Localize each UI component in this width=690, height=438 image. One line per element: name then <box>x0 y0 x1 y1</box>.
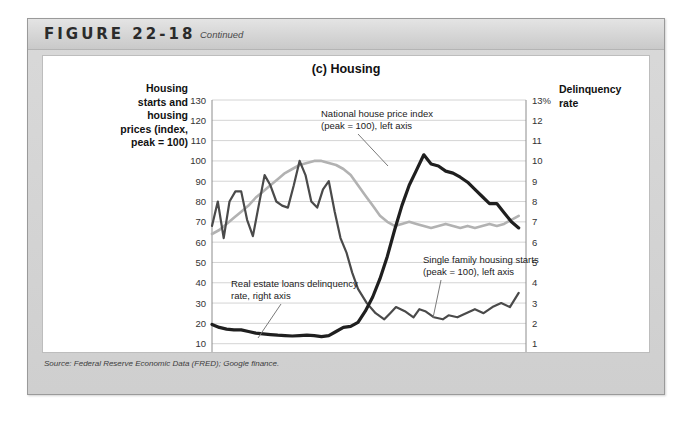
chart-panel: (c) Housing Housingstarts andhousingpric… <box>42 55 650 353</box>
y-tick-right-label-4: 4 <box>532 277 537 288</box>
annotation-single-family-housing-starts: Single family housing starts(peak = 100)… <box>423 254 539 278</box>
y-tick-left-label-120: 120 <box>190 115 206 126</box>
y-tick-left-label-30: 30 <box>195 298 206 309</box>
y-tick-right-label-12: 12 <box>532 115 543 126</box>
y-tick-right-label-7: 7 <box>532 216 537 227</box>
series-line-national-house-price-index-peak-100-left-axis <box>212 161 519 234</box>
y-tick-right-label-9: 9 <box>532 176 537 187</box>
annotation-real-estate-loans-delinquency-rate-line-0: Real estate loans delinquency <box>231 278 358 290</box>
y-tick-right-label-2: 2 <box>532 318 537 329</box>
y-tick-left-label-60: 60 <box>195 237 206 248</box>
annotation-single-family-housing-starts-line-1: (peak = 100), left axis <box>423 266 539 278</box>
annotation-real-estate-loans-delinquency-rate: Real estate loans delinquencyrate, right… <box>231 278 358 302</box>
y-tick-left-label-80: 80 <box>195 196 206 207</box>
y-tick-right-label-8: 8 <box>532 196 537 207</box>
y-tick-right-label-3: 3 <box>532 298 537 309</box>
y-tick-left-label-100: 100 <box>190 155 206 166</box>
y-tick-left-label-90: 90 <box>195 176 206 187</box>
figure-continued-label: Continued <box>200 29 243 40</box>
plot-svg: 2003200420052006200720082009201020112012… <box>43 56 649 352</box>
plot-area: 2003200420052006200720082009201020112012… <box>43 56 649 352</box>
y-tick-right-label-1: 1 <box>532 338 537 349</box>
y-tick-right-label-11: 11 <box>532 135 542 146</box>
y-tick-left-label-50: 50 <box>195 257 206 268</box>
y-tick-left-label-40: 40 <box>195 277 206 288</box>
y-tick-right-label-13%: 13% <box>532 95 552 106</box>
y-tick-left-label-20: 20 <box>195 318 206 329</box>
annotation-single-family-housing-starts-line-0: Single family housing starts <box>423 254 539 266</box>
y-tick-left-label-70: 70 <box>195 216 206 227</box>
annotation-leader-single-family-housing-starts <box>433 280 441 318</box>
y-tick-left-label-130: 130 <box>190 95 206 106</box>
y-tick-left-label-110: 110 <box>191 135 206 146</box>
annotation-leader-real-estate-loans-delinquency-rate <box>258 304 281 338</box>
annotation-national-house-price-index: National house price index(peak = 100), … <box>321 108 433 132</box>
y-tick-right-label-6: 6 <box>532 237 537 248</box>
y-tick-right-label-10: 10 <box>532 155 543 166</box>
y-tick-left-label-10: 10 <box>195 338 206 349</box>
figure-frame: FIGURE 22-18 Continued (c) Housing Housi… <box>27 18 665 395</box>
figure-source: Source: Federal Reserve Economic Data (F… <box>44 359 279 368</box>
annotation-real-estate-loans-delinquency-rate-line-1: rate, right axis <box>231 290 358 302</box>
annotation-national-house-price-index-line-1: (peak = 100), left axis <box>321 120 433 132</box>
figure-header: FIGURE 22-18 Continued <box>28 19 664 50</box>
figure-number: FIGURE 22-18 <box>44 25 195 43</box>
annotation-national-house-price-index-line-0: National house price index <box>321 108 433 120</box>
